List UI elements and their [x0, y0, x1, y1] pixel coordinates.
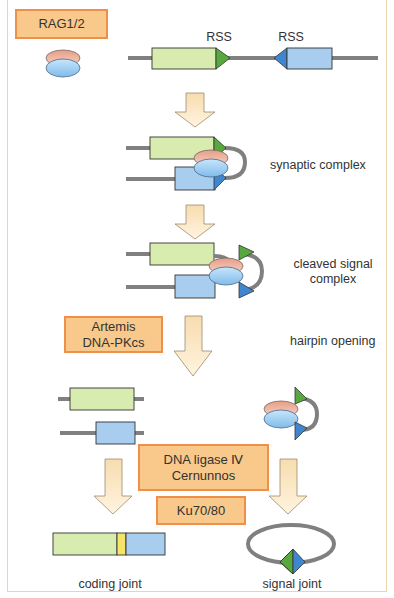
germline-dna: [128, 48, 378, 69]
rss-label-left: RSS: [199, 30, 239, 45]
cleaved-signal-label: cleaved signal complex: [283, 257, 383, 287]
rag-label: RAG1/2: [38, 16, 84, 32]
rag-protein-icon: [46, 50, 80, 77]
coding-joint-icon: [53, 533, 165, 555]
step-arrow-2: [175, 205, 215, 239]
signal-joint-label: signal joint: [242, 577, 342, 592]
cleaved-signal-line2: complex: [283, 272, 383, 287]
coding-ends-icon: [58, 388, 144, 444]
dna-pkcs-label: DNA-PKcs: [82, 335, 144, 351]
step-arrow-1: [175, 93, 215, 127]
ligase-enzyme-box: DNA ligase Ⅳ Cernunnos: [138, 444, 269, 491]
artemis-label: Artemis: [91, 319, 135, 335]
step-arrow-3: [174, 316, 212, 376]
cleaved-signal-line1: cleaved signal: [283, 257, 383, 272]
rss-label-right: RSS: [271, 30, 311, 45]
ku-enzyme-box: Ku70/80: [156, 496, 246, 525]
rag-enzyme-box: RAG1/2: [15, 9, 108, 39]
cleaved-signal-complex-icon: [126, 243, 262, 298]
artemis-enzyme-box: Artemis DNA-PKcs: [64, 316, 163, 353]
step-arrow-coding: [94, 459, 132, 514]
ku-label: Ku70/80: [177, 503, 225, 519]
hairpin-opening-label: hairpin opening: [290, 334, 390, 349]
synaptic-complex-icon: [126, 137, 245, 190]
signal-ends-icon: [264, 387, 317, 440]
synaptic-complex-label: synaptic complex: [270, 158, 390, 173]
step-arrow-signal: [269, 459, 307, 514]
signal-joint-icon: [248, 525, 334, 574]
coding-joint-label: coding joint: [60, 577, 160, 592]
dna-ligase-label: DNA ligase Ⅳ: [164, 452, 244, 468]
cernunnos-label: Cernunnos: [172, 468, 236, 484]
